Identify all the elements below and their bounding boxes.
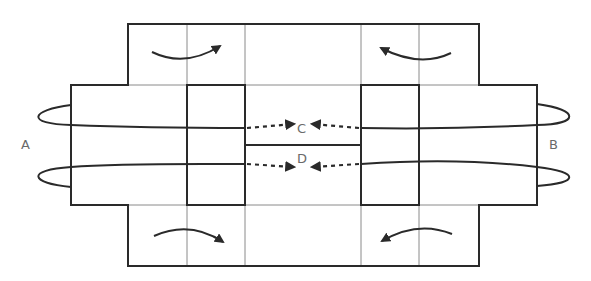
- label-b: B: [549, 138, 558, 151]
- arrow-to-d-left: [247, 164, 294, 167]
- label-c: C: [297, 122, 306, 135]
- fold-arrow-bottom-left: [154, 229, 223, 242]
- fold-arrow-bottom-right: [382, 228, 452, 241]
- arrow-to-d-right: [312, 164, 359, 167]
- wrap-loops-a: [38, 105, 245, 187]
- folding-net-diagram: [0, 0, 591, 281]
- fold-arrow-top-right: [381, 48, 451, 59]
- fold-arrow-top-left: [152, 46, 220, 59]
- label-d: D: [297, 152, 307, 165]
- arrow-to-c-left: [247, 124, 294, 128]
- label-a: A: [21, 138, 30, 151]
- wrap-loops-b: [361, 104, 569, 186]
- thick-inner-lines: [187, 85, 419, 205]
- arrow-to-c-right: [312, 124, 359, 128]
